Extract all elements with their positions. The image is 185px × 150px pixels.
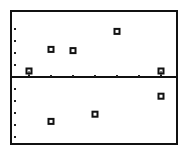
y-tick — [14, 88, 16, 90]
y-tick — [14, 52, 16, 54]
y-ticks — [14, 28, 16, 138]
y-tick — [14, 100, 16, 102]
x-tick — [138, 75, 140, 77]
data-point-square-icon — [48, 46, 55, 53]
x-tick — [94, 75, 96, 77]
data-point-square-icon — [92, 111, 99, 118]
data-point-square-icon — [48, 118, 55, 125]
y-tick — [14, 40, 16, 42]
y-tick — [14, 64, 16, 66]
scatter-plot — [0, 0, 185, 150]
data-point-square-icon — [114, 28, 121, 35]
x-tick — [116, 75, 118, 77]
y-tick — [14, 112, 16, 114]
y-tick — [14, 28, 16, 30]
data-point-square-icon — [70, 47, 77, 54]
data-point-square-icon — [26, 68, 33, 78]
data-point-square-icon — [158, 68, 165, 78]
x-tick — [72, 75, 74, 77]
data-point-square-icon — [158, 93, 165, 100]
x-tick — [50, 75, 52, 77]
y-tick — [14, 136, 16, 138]
y-tick — [14, 124, 16, 126]
